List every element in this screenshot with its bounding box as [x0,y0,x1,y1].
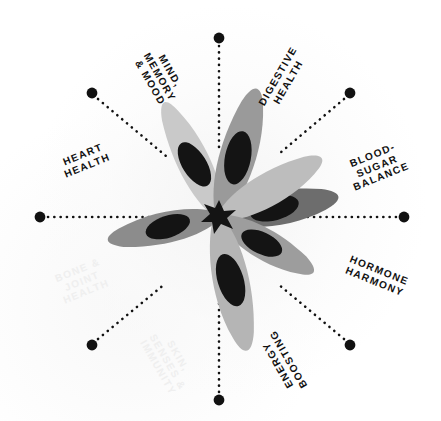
star-anise-icon [0,0,441,421]
wellness-radial-diagram: MIND, MEMORY & MOOD DIGESTIVE HEALTH BLO… [0,0,441,421]
